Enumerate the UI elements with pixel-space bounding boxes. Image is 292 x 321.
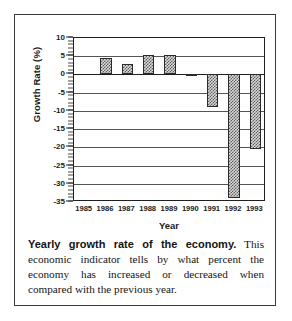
x-axis-tick-label: 1990 bbox=[182, 204, 199, 213]
bar bbox=[143, 55, 155, 74]
y-axis-tick-label: -25 bbox=[53, 160, 65, 169]
plot-area bbox=[73, 37, 265, 201]
y-axis-tick-label: -30 bbox=[53, 178, 65, 187]
caption-title: Yearly growth rate of the economy. bbox=[28, 238, 236, 250]
bar bbox=[122, 64, 134, 74]
y-axis-tick-label: -20 bbox=[53, 142, 65, 151]
y-axis-tick-label: -15 bbox=[53, 124, 65, 133]
y-axis-major-tick bbox=[66, 73, 73, 74]
y-axis-tick-labels: 1050-5-10-15-20-25-30-35 bbox=[41, 37, 65, 201]
figure-caption: Yearly growth rate of the economy. This … bbox=[28, 237, 264, 297]
y-axis-tick-label: 10 bbox=[56, 33, 65, 42]
y-axis-tick-label: -35 bbox=[53, 197, 65, 206]
y-axis-tick-label: 0 bbox=[61, 69, 65, 78]
x-axis-tick-labels: 198519861987198819891990199119921993 bbox=[73, 204, 265, 216]
bar bbox=[250, 74, 262, 149]
y-axis-tick-label: -10 bbox=[53, 105, 65, 114]
bar bbox=[164, 55, 176, 75]
chart-region: Growth Rate (%) 1050-5-10-15-20-25-30-35… bbox=[15, 15, 275, 220]
y-axis-major-tick bbox=[66, 37, 73, 38]
x-axis-title: Year bbox=[73, 220, 265, 231]
y-axis-title: Growth Rate (%) bbox=[31, 30, 42, 140]
x-axis-tick-label: 1988 bbox=[139, 204, 156, 213]
y-axis-major-tick bbox=[66, 128, 73, 129]
x-axis-tick-label: 1987 bbox=[118, 204, 135, 213]
y-axis-major-tick bbox=[66, 91, 73, 92]
y-axis-major-tick bbox=[66, 109, 73, 110]
y-axis-major-tick bbox=[66, 164, 73, 165]
figure-card: Growth Rate (%) 1050-5-10-15-20-25-30-35… bbox=[14, 14, 276, 306]
bar bbox=[207, 74, 219, 107]
y-axis-major-tick bbox=[66, 182, 73, 183]
x-axis-tick-label: 1985 bbox=[75, 204, 92, 213]
y-axis-tick-label: 5 bbox=[61, 51, 65, 60]
x-axis-tick-label: 1986 bbox=[97, 204, 114, 213]
bar bbox=[228, 74, 240, 198]
y-axis-tick-marks bbox=[66, 37, 73, 201]
x-axis-tick-label: 1992 bbox=[225, 204, 242, 213]
x-axis-tick-label: 1991 bbox=[203, 204, 220, 213]
bar bbox=[186, 74, 198, 76]
bar bbox=[100, 58, 112, 74]
y-axis-major-tick bbox=[66, 201, 73, 202]
y-axis-tick-label: -5 bbox=[58, 87, 65, 96]
y-axis-major-tick bbox=[66, 55, 73, 56]
x-axis-tick-label: 1989 bbox=[161, 204, 178, 213]
x-axis-tick-label: 1993 bbox=[246, 204, 263, 213]
y-axis-major-tick bbox=[66, 146, 73, 147]
